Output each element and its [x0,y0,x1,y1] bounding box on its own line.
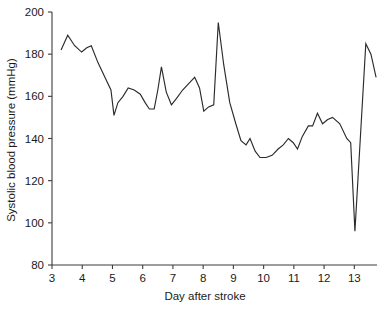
y-tick-label: 180 [25,48,44,60]
x-tick-label: 6 [139,272,145,284]
x-axis-ticks: 345678910111213 [49,265,361,284]
x-axis: 345678910111213 [49,265,377,284]
y-tick-label: 200 [25,6,44,18]
line-chart: 80100120140160180200 345678910111213 Day… [0,0,381,314]
x-tick-label: 7 [170,272,176,284]
x-tick-label: 11 [288,272,300,284]
x-tick-label: 8 [200,272,206,284]
x-tick-label: 10 [257,272,270,284]
chart-container: 80100120140160180200 345678910111213 Day… [0,0,381,314]
x-tick-label: 9 [230,272,236,284]
y-tick-label: 80 [31,259,44,271]
y-tick-label: 120 [25,175,44,187]
x-axis-title: Day after stroke [164,290,245,302]
y-axis-title: Systolic blood pressure (mmHg) [5,58,17,222]
y-tick-label: 140 [25,133,44,145]
data-series-group [61,23,376,232]
y-tick-label: 100 [25,217,44,229]
x-tick-label: 3 [49,272,55,284]
x-tick-label: 5 [109,272,115,284]
x-tick-label: 12 [318,272,331,284]
y-tick-label: 160 [25,90,44,102]
y-axis-ticks: 80100120140160180200 [25,6,52,271]
series-line-systolic-blood-pressure [61,23,376,232]
y-axis: 80100120140160180200 [25,6,52,271]
x-tick-label: 4 [79,272,86,284]
x-tick-label: 13 [348,272,361,284]
